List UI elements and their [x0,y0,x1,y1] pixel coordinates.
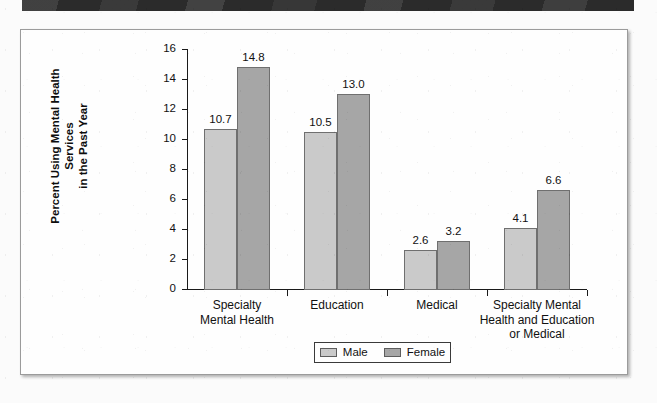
y-axis-tick-label: 2 [154,253,176,265]
x-axis-tick [487,290,488,296]
bar-chart-plot: Percent Using Mental Health Services in … [21,30,629,376]
y-axis-tick [182,139,187,140]
y-axis-tick [182,49,187,50]
legend-item-male: Male [320,347,368,359]
legend-swatch-male [320,348,337,357]
y-axis-tick-label: 0 [154,283,176,295]
y-axis-tick [182,109,187,110]
bar-value-label: 6.6 [531,175,576,187]
x-axis-tick [287,290,288,296]
y-axis-tick [182,289,187,290]
bar-value-label: 3.2 [431,226,476,238]
bar-male-0 [204,129,237,291]
y-axis-tick [182,169,187,170]
legend-label-male: Male [343,347,368,359]
y-axis-tick-label: 6 [154,193,176,205]
bar-male-3 [504,228,537,291]
x-axis-category-label: Specialty Mental Health and Education or… [467,298,607,342]
legend-item-female: Female [384,347,445,359]
figure-frame: Percent Using Mental Health Services in … [20,29,628,375]
y-axis-tick-label: 12 [154,103,176,115]
bar-female-0 [237,67,270,290]
bar-female-1 [337,94,370,290]
legend-label-female: Female [407,347,445,359]
bar-female-2 [437,241,470,290]
y-axis-tick [182,259,187,260]
y-axis-tick-label: 16 [154,43,176,55]
bar-value-label: 13.0 [331,79,376,91]
y-axis-tick [182,199,187,200]
y-axis-title: Percent Using Mental Health Services in … [48,46,90,246]
bar-value-label: 14.8 [231,52,276,64]
y-axis-tick-label: 14 [154,73,176,85]
x-axis-tick [387,290,388,296]
page-header-band [22,0,634,11]
y-axis-tick-label: 8 [154,163,176,175]
y-axis-tick [182,79,187,80]
bar-female-3 [537,190,570,290]
y-axis-title-line-2: in the Past Year [76,46,90,246]
legend-swatch-female [384,348,401,357]
bar-male-2 [404,250,437,290]
y-axis-tick [182,229,187,230]
bar-male-1 [304,132,337,291]
chart-legend: Male Female [314,342,451,363]
y-axis-tick-label: 4 [154,223,176,235]
x-axis-tick [587,290,588,296]
y-axis-title-line-1: Percent Using Mental Health Services [48,46,76,246]
y-axis-line [187,49,188,290]
y-axis-tick-label: 10 [154,133,176,145]
